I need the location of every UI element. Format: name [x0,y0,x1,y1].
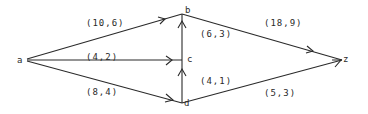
flow-network-diagram: a b c d z (10,6) (4,2) (8,4) (6,3) (4,1)… [0,0,368,114]
edge-label-b-z: (18,9) [264,18,303,28]
node-label-c: c [187,54,192,64]
edge-label-c-b: (6,3) [200,29,232,39]
diagram-canvas: a b c d z (10,6) (4,2) (8,4) (6,3) (4,1)… [0,0,368,114]
edge-label-a-b: (10,6) [86,18,125,28]
node-label-d: d [184,98,189,108]
edge-label-a-d: (8,4) [86,87,118,97]
node-label-a: a [17,55,22,65]
edge-d-c [178,60,186,103]
edge-c-b [178,14,186,60]
edge-label-a-c: (4,2) [86,52,118,62]
node-label-b: b [185,5,190,15]
arrowhead-icon [165,94,173,102]
node-label-z: z [343,54,348,64]
edge-label-d-c: (4,1) [200,76,232,86]
edge-label-d-z: (5,3) [264,88,296,98]
